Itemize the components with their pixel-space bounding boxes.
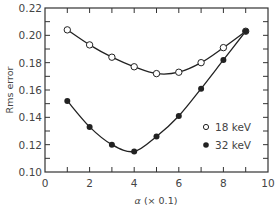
y-tick-label: 0.18: [19, 57, 42, 69]
y-axis-title: Rms error: [4, 66, 15, 113]
legend: 18 keV 32 keV: [203, 121, 252, 151]
open-circle-marker: [153, 70, 159, 76]
y-tick-label: 0.16: [19, 84, 43, 96]
open-circle-marker: [109, 54, 115, 60]
open-circle-marker: [86, 42, 92, 48]
filled-circle-marker: [198, 86, 204, 92]
legend-open-circle-icon: [203, 124, 208, 129]
open-circle-marker: [220, 44, 226, 50]
y-tick-label: 0.20: [19, 29, 42, 41]
open-circle-marker: [131, 64, 137, 70]
filled-circle-marker: [109, 142, 115, 148]
filled-circle-marker: [243, 28, 249, 34]
legend-label-32kev: 32 keV: [215, 139, 252, 151]
x-tick-label: 0: [42, 177, 49, 189]
open-circle-marker: [198, 59, 204, 65]
x-tick-label: 4: [131, 177, 138, 189]
y-tick-label: 0.10: [19, 166, 42, 178]
x-tick-label: 2: [86, 177, 93, 189]
legend-filled-circle-icon: [203, 142, 209, 148]
y-tick-label: 0.22: [19, 2, 42, 14]
x-tick-label: 10: [261, 177, 274, 189]
rms-error-chart: 02468100.100.120.140.160.180.200.22 Rms …: [0, 0, 279, 210]
filled-circle-marker: [154, 133, 160, 139]
series-markers: [64, 27, 249, 155]
filled-circle-marker: [176, 113, 182, 119]
filled-circle-marker: [131, 149, 137, 155]
legend-label-18kev: 18 keV: [215, 121, 252, 133]
y-tick-label: 0.12: [19, 139, 42, 151]
tick-labels: 02468100.100.120.140.160.180.200.22: [19, 2, 275, 189]
open-circle-marker: [64, 27, 70, 33]
series-line-18-kev: [67, 30, 245, 74]
filled-circle-marker: [220, 57, 226, 63]
x-tick-label: 6: [175, 177, 182, 189]
open-circle-marker: [176, 69, 182, 75]
filled-circle-marker: [64, 98, 70, 104]
filled-circle-marker: [87, 124, 93, 130]
y-tick-label: 0.14: [19, 111, 43, 123]
x-axis-title: α (× 0.1): [135, 195, 178, 206]
x-tick-label: 8: [220, 177, 227, 189]
